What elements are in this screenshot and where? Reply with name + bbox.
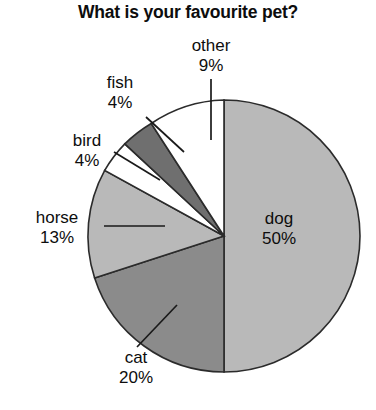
pie-label-cat-value: 20% bbox=[108, 368, 164, 388]
pie-label-dog-value: 50% bbox=[248, 229, 310, 249]
pie-label-fish: fish 4% bbox=[92, 73, 148, 113]
pie-label-dog: dog 50% bbox=[248, 209, 310, 249]
pie-label-other: other 9% bbox=[178, 36, 244, 76]
pie-label-cat-name: cat bbox=[125, 348, 148, 367]
pie-label-fish-value: 4% bbox=[92, 93, 148, 113]
pie-label-horse-name: horse bbox=[36, 208, 79, 227]
pie-label-dog-name: dog bbox=[265, 209, 293, 228]
pie-label-bird: bird 4% bbox=[58, 131, 116, 171]
pie-label-bird-value: 4% bbox=[58, 151, 116, 171]
pie-chart: What is your favourite pet? other 9% bbox=[0, 0, 376, 410]
pie-label-horse: horse 13% bbox=[14, 208, 100, 248]
pie-label-other-name: other bbox=[192, 36, 231, 55]
pie-label-horse-value: 13% bbox=[14, 228, 100, 248]
pie-label-fish-name: fish bbox=[107, 73, 133, 92]
pie-slices bbox=[88, 100, 360, 372]
pie-label-bird-name: bird bbox=[73, 131, 101, 150]
pie-label-other-value: 9% bbox=[178, 56, 244, 76]
pie-label-cat: cat 20% bbox=[108, 348, 164, 388]
